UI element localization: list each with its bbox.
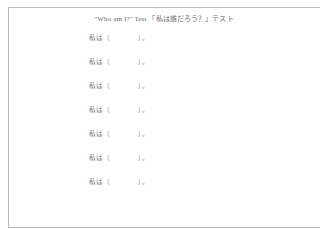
answer-blank-field[interactable] (109, 35, 140, 42)
page-title: "Who am I?" Test 「私は誰だろう？」テスト (9, 16, 226, 23)
answer-line-subject: 私は (89, 83, 103, 90)
answer-line[interactable]: 私は （ ）。 (9, 35, 226, 59)
answer-line[interactable]: 私は （ ）。 (9, 155, 226, 179)
answer-line[interactable]: 私は （ ）。 (9, 107, 226, 131)
answer-lines-list: 私は （ ）。 私は （ ）。 私は （ ）。 私は （ ）。 私は （ (9, 35, 226, 203)
answer-line-subject: 私は (89, 155, 103, 162)
answer-blank-field[interactable] (109, 107, 140, 114)
answer-line-subject: 私は (89, 35, 103, 42)
answer-blank-field[interactable] (109, 179, 140, 186)
answer-blank-field[interactable] (109, 131, 140, 138)
answer-blank-field[interactable] (109, 155, 140, 162)
paren-close: ）。 (138, 83, 149, 90)
answer-line-subject: 私は (89, 59, 103, 66)
paren-close: ）。 (138, 59, 149, 66)
worksheet-page: "Who am I?" Test 「私は誰だろう？」テスト 私は （ ）。 私は… (8, 7, 226, 217)
paren-close: ）。 (138, 131, 149, 138)
answer-line-subject: 私は (89, 131, 103, 138)
paren-close: ）。 (138, 35, 149, 42)
answer-blank-field[interactable] (109, 59, 140, 66)
answer-line[interactable]: 私は （ ）。 (9, 179, 226, 203)
answer-line-subject: 私は (89, 107, 103, 114)
paren-close: ）。 (138, 155, 149, 162)
answer-line[interactable]: 私は （ ）。 (9, 83, 226, 107)
answer-line[interactable]: 私は （ ）。 (9, 131, 226, 155)
answer-blank-field[interactable] (109, 83, 140, 90)
answer-line-subject: 私は (89, 179, 103, 186)
answer-line[interactable]: 私は （ ）。 (9, 59, 226, 83)
paren-close: ）。 (138, 107, 149, 114)
paren-close: ）。 (138, 179, 149, 186)
